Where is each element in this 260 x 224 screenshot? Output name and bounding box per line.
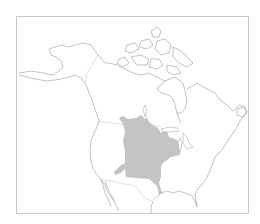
- alaska-peninsula: [19, 75, 87, 87]
- cut-off-caption: · ·: [0, 0, 260, 4]
- northern-mainland-coastline: [109, 63, 165, 81]
- north-america-map: [17, 17, 249, 214]
- map-frame: [16, 16, 249, 214]
- lake-superior: [161, 127, 179, 132]
- arctic-archipelago: [117, 27, 193, 75]
- pacific-coastline: [87, 87, 119, 211]
- gulf-coastline: [151, 191, 197, 214]
- james-bay-coastline: [177, 113, 181, 123]
- lake-michigan: [178, 138, 182, 151]
- atlantic-coastline: [195, 105, 247, 207]
- hudson-bay-coastline: [157, 77, 187, 113]
- alaska-canada-border: [85, 55, 98, 83]
- us-mexico-border: [101, 179, 157, 201]
- lake-winnipeg: [143, 105, 147, 117]
- lake-huron-erie: [183, 133, 193, 149]
- labrador-coastline: [187, 83, 239, 111]
